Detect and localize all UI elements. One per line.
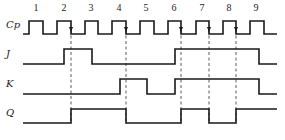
signal-labels: CpJKQ: [4, 19, 21, 118]
falling-edge-arrow-icon: [207, 27, 211, 32]
clock-number-7: 7: [200, 2, 205, 13]
waveform-cp: [23, 21, 277, 34]
clock-number-8: 8: [227, 2, 232, 13]
falling-edge-arrow-icon: [69, 27, 73, 32]
clock-number-2: 2: [62, 2, 67, 13]
clock-number-6: 6: [172, 2, 177, 13]
clock-number-9: 9: [254, 2, 259, 13]
clock-number-1: 1: [34, 2, 39, 13]
waveform-k: [23, 79, 277, 94]
timing-diagram: 123456789 CpJKQ: [0, 0, 285, 140]
clock-number-5: 5: [144, 2, 149, 13]
signal-label-k: K: [5, 78, 14, 89]
clock-number-4: 4: [117, 2, 122, 13]
falling-edge-arrow-icon: [124, 27, 128, 32]
signal-label-j: J: [4, 48, 11, 59]
waveform-j: [23, 49, 277, 64]
trigger-edge-dashed-lines: [71, 30, 236, 124]
clock-pulse-numbers: 123456789: [34, 2, 259, 13]
waveforms: [23, 21, 277, 123]
falling-edge-arrow-icon: [234, 27, 238, 32]
falling-edge-arrow-icon: [179, 27, 183, 32]
signal-label-q: Q: [6, 107, 14, 118]
clock-number-3: 3: [89, 2, 94, 13]
signal-label-cp: Cp: [6, 19, 21, 30]
waveform-q: [23, 109, 277, 123]
